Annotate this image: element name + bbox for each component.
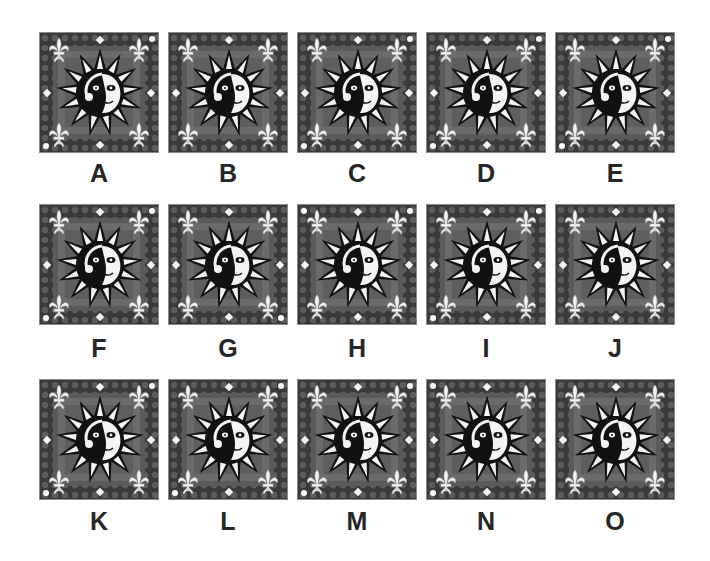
sun-tile-image [555,379,675,500]
tile-option-h[interactable]: H [297,204,417,325]
corner-dot [278,383,284,389]
sun-face-icon [313,394,403,486]
tile-option-g[interactable]: G [168,204,288,325]
corner-dot [301,143,307,149]
corner-dot [430,143,436,149]
corner-dot [407,208,413,214]
sun-tile-image [39,204,159,325]
sun-face-icon [442,394,532,486]
corner-dot [430,383,436,389]
corner-dot [301,208,307,214]
tile-option-k[interactable]: K [39,379,159,500]
sun-tile-image [168,32,288,153]
tile-label: O [555,507,675,535]
sun-tile-image [297,204,417,325]
corner-dot [149,208,155,214]
sun-face-icon [55,47,145,139]
corner-dot [149,36,155,42]
tile-label: L [168,507,288,535]
tile-label: J [555,334,675,362]
tile-option-b[interactable]: B [168,32,288,153]
corner-dot [43,490,49,496]
corner-dot [301,490,307,496]
tile-option-o[interactable]: O [555,379,675,500]
tile-option-d[interactable]: D [426,32,546,153]
tile-label: N [426,507,546,535]
sun-face-icon [571,47,661,139]
corner-dot [536,36,542,42]
sun-tile-image [555,32,675,153]
sun-tile-image [297,379,417,500]
sun-tile-image [555,204,675,325]
sun-face-icon [571,219,661,311]
corner-dot [407,36,413,42]
sun-tile-image [168,204,288,325]
sun-face-icon [442,47,532,139]
corner-dot [430,315,436,321]
tile-option-a[interactable]: A [39,32,159,153]
sun-tile-image [426,379,546,500]
corner-dot [149,383,155,389]
corner-dot [430,490,436,496]
sun-face-icon [313,219,403,311]
sun-tile-image [426,204,546,325]
sun-face-icon [55,219,145,311]
tile-option-e[interactable]: E [555,32,675,153]
corner-dot [172,490,178,496]
sun-face-icon [55,394,145,486]
corner-dot [43,315,49,321]
tile-label: D [426,159,546,187]
sun-face-icon [184,47,274,139]
tile-option-i[interactable]: I [426,204,546,325]
sun-tile-image [39,32,159,153]
sun-tile-image [39,379,159,500]
tile-label: A [39,159,159,187]
tile-label: B [168,159,288,187]
corner-dot [278,315,284,321]
tile-label: H [297,334,417,362]
sun-face-icon [571,394,661,486]
sun-face-icon [184,394,274,486]
tile-label: K [39,507,159,535]
tile-option-n[interactable]: N [426,379,546,500]
sun-face-icon [313,47,403,139]
tile-option-m[interactable]: M [297,379,417,500]
tile-label: F [39,334,159,362]
sun-tile-image [297,32,417,153]
corner-dot [559,143,565,149]
tile-label: C [297,159,417,187]
sun-face-icon [184,219,274,311]
tile-option-j[interactable]: J [555,204,675,325]
tile-label: M [297,507,417,535]
corner-dot [407,383,413,389]
tile-option-f[interactable]: F [39,204,159,325]
sun-face-icon [442,219,532,311]
tile-label: E [555,159,675,187]
sun-tile-image [168,379,288,500]
sun-tile-image [426,32,546,153]
tile-option-l[interactable]: L [168,379,288,500]
corner-dot [536,208,542,214]
corner-dot [43,143,49,149]
tile-label: I [426,334,546,362]
corner-dot [665,36,671,42]
tile-label: G [168,334,288,362]
tile-option-c[interactable]: C [297,32,417,153]
